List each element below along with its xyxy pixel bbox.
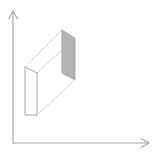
bottom-right-connector-line	[37, 80, 75, 115]
back-face-group	[62, 30, 75, 80]
prism-on-axes-figure	[0, 0, 157, 164]
front-face-group	[25, 67, 37, 115]
top-left-connector-line	[25, 30, 62, 67]
front-face-polygon	[25, 67, 37, 115]
diagram-canvas	[0, 0, 157, 164]
back-face-polygon	[62, 30, 75, 80]
